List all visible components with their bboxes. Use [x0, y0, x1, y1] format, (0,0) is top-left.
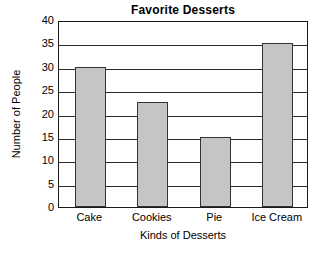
- bar: [200, 137, 231, 207]
- x-axis-tick-label: Pie: [206, 210, 222, 224]
- y-axis-tick-label: 5: [26, 179, 54, 190]
- bar-series: [59, 22, 307, 207]
- y-axis-tick-label: 40: [26, 15, 54, 26]
- y-axis-tick-label: 10: [26, 155, 54, 166]
- y-axis-tick-label: 15: [26, 132, 54, 143]
- bar-chart-figure: Favorite Desserts Number of People 05101…: [0, 0, 329, 258]
- bar: [262, 43, 293, 207]
- bar: [75, 67, 106, 207]
- y-axis-tick-label: 20: [26, 109, 54, 120]
- y-axis-tick-labels: 0510152025303540: [26, 21, 54, 208]
- x-axis-tick-labels: CakeCookiesPieIce Cream: [58, 210, 308, 226]
- x-axis-tick-label: Ice Cream: [251, 210, 302, 224]
- y-axis-tick-label: 35: [26, 38, 54, 49]
- x-axis-title: Kinds of Desserts: [58, 228, 308, 242]
- y-axis-tick-label: 30: [26, 62, 54, 73]
- y-axis-title: Number of People: [10, 34, 22, 194]
- page-title: Favorite Desserts: [58, 2, 308, 18]
- plot-area: [58, 21, 308, 208]
- y-axis-tick-label: 25: [26, 85, 54, 96]
- y-axis-tick-label: 0: [26, 202, 54, 213]
- x-axis-tick-label: Cake: [76, 210, 102, 224]
- x-axis-tick-label: Cookies: [132, 210, 172, 224]
- bar: [137, 102, 168, 207]
